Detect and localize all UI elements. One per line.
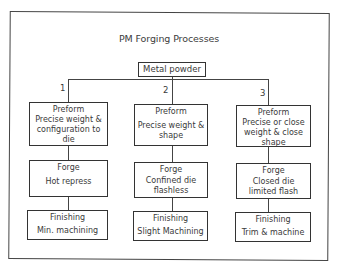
branch-1-finishing-text: Min. machining	[37, 226, 98, 236]
branch-1-forge-heading: Forge	[57, 163, 79, 173]
connector-branch-1-preform-forge	[68, 146, 69, 160]
connector-branch-1-forge-finishing	[68, 197, 69, 210]
branch-3-forge-box: Forge Closed die limited flash	[236, 163, 311, 199]
branch-1-finishing-heading: Finishing	[50, 213, 85, 223]
branch-1-number: 1	[60, 83, 65, 93]
connector-branch-1-drop	[68, 79, 69, 102]
branch-3-forge-text: Closed die limited flash	[249, 177, 298, 197]
node-metal-powder: Metal powder	[138, 62, 206, 77]
branch-2-number: 2	[163, 85, 168, 95]
branch-2-forge-heading: Forge	[160, 165, 182, 175]
branch-3-forge-heading: Forge	[262, 166, 284, 176]
branch-2-forge-box: Forge Confined die flashless	[134, 162, 208, 198]
branch-3-finishing-box: Finishing Trim & machine	[235, 212, 311, 242]
branch-3-preform-box: Preform Precise or close weight & close …	[236, 105, 311, 147]
diagram-title: PM Forging Processes	[0, 33, 338, 44]
branch-2-finishing-heading: Finishing	[153, 214, 188, 224]
branch-2-preform-text: Precise weight & shape	[138, 121, 205, 141]
connector-bus	[68, 79, 269, 80]
branch-1-preform-text: Precise weight & configuration to die	[35, 115, 102, 145]
branch-1-forge-text: Hot repress	[45, 177, 91, 187]
branch-2-preform-box: Preform Precise weight & shape	[134, 104, 208, 146]
branch-3-finishing-heading: Finishing	[255, 215, 290, 225]
branch-2-finishing-text: Slight Machining	[137, 227, 203, 237]
branch-1-finishing-box: Finishing Min. machining	[27, 210, 108, 240]
node-metal-powder-label: Metal powder	[143, 64, 201, 75]
branch-3-number: 3	[260, 88, 265, 98]
connector-branch-3-preform-forge	[268, 147, 269, 163]
connector-branch-2-drop	[172, 79, 173, 104]
branch-2-finishing-box: Finishing Slight Machining	[133, 211, 208, 241]
branch-1-preform-box: Preform Precise weight & configuration t…	[29, 102, 108, 146]
connector-branch-3-forge-finishing	[268, 199, 269, 212]
branch-1-forge-box: Forge Hot repress	[29, 160, 108, 197]
branch-3-preform-heading: Preform	[258, 108, 289, 118]
branch-2-preform-heading: Preform	[155, 107, 186, 117]
connector-branch-3-drop	[268, 79, 269, 105]
connector-branch-2-forge-finishing	[172, 198, 173, 211]
branch-3-preform-text: Precise or close weight & close shape	[242, 118, 304, 148]
branch-1-preform-heading: Preform	[53, 105, 84, 115]
connector-branch-2-preform-forge	[172, 146, 173, 162]
branch-3-finishing-text: Trim & machine	[242, 228, 305, 238]
branch-2-forge-text: Confined die flashless	[146, 176, 196, 196]
